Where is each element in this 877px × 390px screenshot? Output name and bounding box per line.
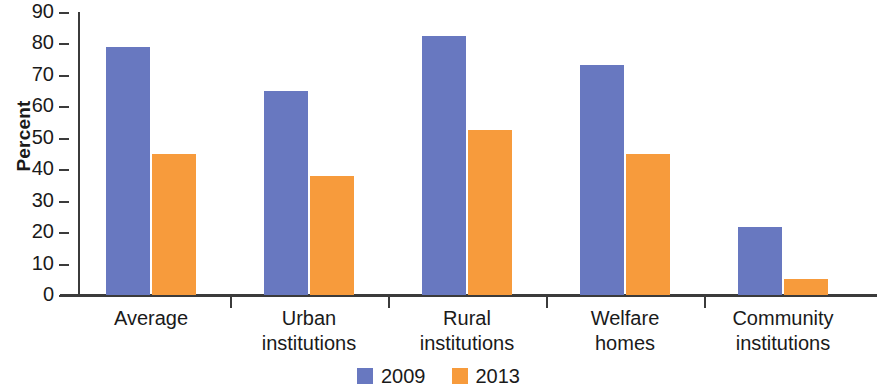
x-axis-label-line: Rural <box>388 306 546 331</box>
y-axis-tick: 40 <box>0 169 78 170</box>
chart-legend: 20092013 <box>0 366 877 386</box>
bar-group <box>422 12 512 295</box>
y-axis-tick-label: 70 <box>32 61 54 87</box>
bar-2013-community-institutions <box>784 279 828 295</box>
bar-2013-average <box>152 154 196 296</box>
y-axis-tick-label: 80 <box>32 29 54 55</box>
y-axis-tick: 90 <box>0 12 78 13</box>
y-axis-tick-label: 90 <box>32 0 54 24</box>
bar-chart: Percent 9080706050403020100 AverageUrban… <box>0 0 877 390</box>
x-axis-label-line: Urban <box>230 306 388 331</box>
x-axis-label-rural-institutions: Ruralinstitutions <box>388 306 546 356</box>
legend-swatch-icon <box>452 368 468 384</box>
y-axis-tick-mark <box>59 201 69 203</box>
plot-area <box>78 12 868 295</box>
y-axis-tick: 60 <box>0 106 78 107</box>
bar-2013-welfare-homes <box>626 154 670 296</box>
x-axis-label-line: institutions <box>704 331 862 356</box>
y-axis-tick: 10 <box>0 264 78 265</box>
x-axis-label-average: Average <box>72 306 230 331</box>
x-axis-label-line: homes <box>546 331 704 356</box>
bar-2009-community-institutions <box>738 227 782 295</box>
x-axis-label-line: institutions <box>230 331 388 356</box>
y-axis-tick: 20 <box>0 232 78 233</box>
y-axis-tick-mark <box>59 75 69 77</box>
y-axis-tick-label: 40 <box>32 155 54 181</box>
y-axis-tick-label: 0 <box>43 281 54 307</box>
x-axis-label-line: Average <box>72 306 230 331</box>
legend-label: 2009 <box>381 366 426 386</box>
bar-2013-rural-institutions <box>468 130 512 295</box>
x-axis-label-line: Community <box>704 306 862 331</box>
bar-group <box>264 12 354 295</box>
bar-2009-welfare-homes <box>580 65 624 295</box>
legend-item-2009[interactable]: 2009 <box>357 366 426 386</box>
y-axis-tick-mark <box>59 12 69 14</box>
bar-group <box>106 12 196 295</box>
bar-2009-average <box>106 47 150 295</box>
y-axis-tick-mark <box>59 232 69 234</box>
x-axis-label-line: Welfare <box>546 306 704 331</box>
y-axis-tick-label: 50 <box>32 124 54 150</box>
legend-label: 2013 <box>476 366 521 386</box>
y-axis-tick-mark <box>59 106 69 108</box>
y-axis-tick-label: 20 <box>32 218 54 244</box>
y-axis-tick: 70 <box>0 75 78 76</box>
y-axis-tick-mark <box>59 138 69 140</box>
x-axis-label-urban-institutions: Urbaninstitutions <box>230 306 388 356</box>
legend-swatch-icon <box>357 368 373 384</box>
x-axis-label-welfare-homes: Welfarehomes <box>546 306 704 356</box>
y-axis-tick: 50 <box>0 138 78 139</box>
bar-2009-rural-institutions <box>422 36 466 295</box>
x-axis-label-community-institutions: Communityinstitutions <box>704 306 862 356</box>
y-axis-tick-mark <box>59 264 69 266</box>
y-axis-tick: 80 <box>0 43 78 44</box>
y-axis-tick-mark <box>59 169 69 171</box>
bar-group <box>580 12 670 295</box>
bar-2013-urban-institutions <box>310 176 354 295</box>
bar-group <box>738 12 828 295</box>
y-axis-tick: 30 <box>0 201 78 202</box>
y-axis-tick-mark <box>59 43 69 45</box>
y-axis-tick-label: 30 <box>32 187 54 213</box>
legend-item-2013[interactable]: 2013 <box>452 366 521 386</box>
y-axis-tick-label: 10 <box>32 250 54 276</box>
bar-2009-urban-institutions <box>264 91 308 295</box>
y-axis-tick-label: 60 <box>32 92 54 118</box>
x-axis-label-line: institutions <box>388 331 546 356</box>
